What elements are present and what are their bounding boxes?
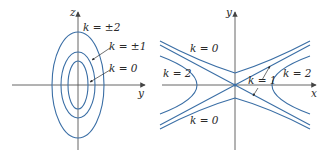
label-k2-left: k = 2 <box>163 67 192 79</box>
right-plot: y x k = 0 k = 2 k = 1 k = 2 k = 0 <box>160 6 317 150</box>
level-curves-figure: z y k = ±2 k = ±1 k = 0 y x k = 0 k = 2 … <box>0 0 330 160</box>
label-k2-right: k = 2 <box>283 67 312 79</box>
z-axis-label: z <box>69 6 76 18</box>
label-k0-bottom: k = 0 <box>190 114 219 126</box>
pointer-k0 <box>90 70 110 82</box>
x-axis-label: x <box>311 87 317 99</box>
origin-point <box>233 83 236 86</box>
label-k1: k = 1 <box>248 74 277 86</box>
y-axis-label: y <box>225 6 233 18</box>
left-plot: z y k = ±2 k = ±1 k = 0 <box>12 6 146 150</box>
label-k-pm1: k = ±1 <box>109 40 146 52</box>
label-k0: k = 0 <box>109 62 138 74</box>
pointer-k1-lower <box>253 88 258 96</box>
label-k-pm2: k = ±2 <box>83 21 121 33</box>
label-k0-top: k = 0 <box>190 42 219 54</box>
y-axis-label: y <box>137 87 145 99</box>
